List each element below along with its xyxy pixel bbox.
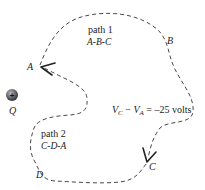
charge-label: Q xyxy=(9,105,17,116)
point-d-label: D xyxy=(35,169,44,180)
path-1-title: path 1 xyxy=(88,24,113,35)
arrow-head-at-a-icon xyxy=(41,63,55,75)
path-2-curve xyxy=(30,68,146,183)
path-2-title: path 2 xyxy=(41,128,66,139)
point-a-label: A xyxy=(26,61,34,72)
arrow-head-at-c-icon xyxy=(143,148,156,162)
path-diagram: + Q A B C D path 1 A-B-C path 2 C-D-A VC… xyxy=(0,0,205,190)
point-b-label: B xyxy=(167,35,173,46)
positive-charge-icon: + xyxy=(6,89,18,101)
point-c-label: C xyxy=(149,161,156,172)
svg-text:+: + xyxy=(10,91,15,100)
path-2-route: C-D-A xyxy=(41,141,67,151)
potential-difference-equation: VC − VA = –25 volts xyxy=(112,104,192,117)
path-1-route: A-B-C xyxy=(86,37,112,47)
